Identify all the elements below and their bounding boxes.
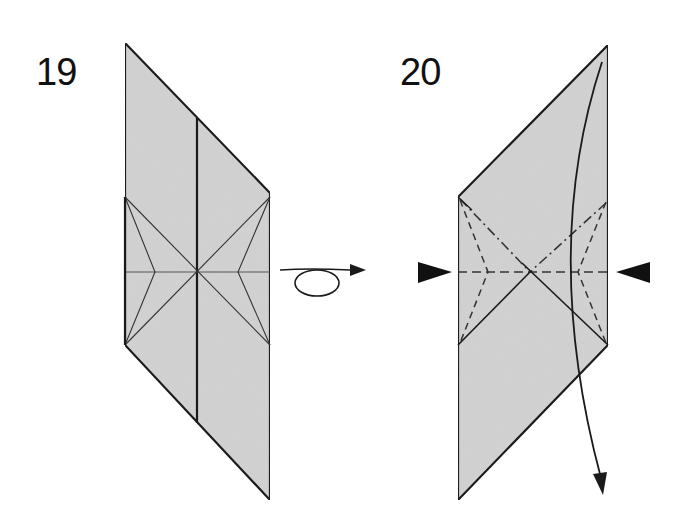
origami-diagram bbox=[0, 0, 684, 530]
step-20-model bbox=[458, 45, 608, 500]
turn-over-arrow-icon bbox=[280, 264, 366, 296]
push-arrow-right-icon bbox=[616, 262, 650, 283]
push-arrow-left-icon bbox=[418, 262, 452, 283]
step-19-model bbox=[125, 43, 270, 500]
